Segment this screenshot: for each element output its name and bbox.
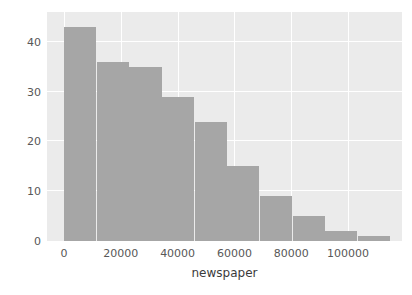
x-axis-tick-labels: 020000400006000080000100000 <box>0 248 412 264</box>
y-tick-label: 20 <box>1 136 41 147</box>
histogram-bars <box>47 12 402 241</box>
histogram-figure: 010203040 020000400006000080000100000 ne… <box>0 0 412 295</box>
y-tick-label: 30 <box>1 86 41 97</box>
x-axis-label: newspaper <box>47 267 402 280</box>
y-tick-label: 10 <box>1 186 41 197</box>
histogram-bar <box>64 27 96 241</box>
histogram-bar <box>129 67 161 241</box>
plot-area <box>47 12 402 241</box>
histogram-bar <box>325 231 357 241</box>
histogram-bar <box>358 236 390 241</box>
histogram-bar <box>162 97 194 241</box>
y-tick-label: 0 <box>1 236 41 247</box>
x-tick-label: 100000 <box>308 248 388 259</box>
histogram-bar <box>227 166 259 241</box>
histogram-bar <box>195 122 227 241</box>
histogram-bar <box>293 216 325 241</box>
y-tick-label: 40 <box>1 36 41 47</box>
histogram-bar <box>260 196 292 241</box>
histogram-bar <box>97 62 129 241</box>
